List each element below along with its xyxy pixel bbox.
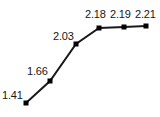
data-point-marker xyxy=(24,101,29,106)
data-label-3: 2.18 xyxy=(85,9,106,20)
data-point-marker xyxy=(97,26,102,31)
data-label-1: 1.66 xyxy=(27,66,48,77)
data-label-4: 2.19 xyxy=(110,9,131,20)
data-label-0: 1.41 xyxy=(2,90,23,101)
data-label-5: 2.21 xyxy=(135,9,156,20)
line-chart: 1.41 1.66 2.03 2.18 2.19 2.21 xyxy=(0,0,160,117)
data-label-2: 2.03 xyxy=(53,31,74,42)
data-point-marker xyxy=(122,25,127,30)
data-point-marker xyxy=(144,24,149,29)
data-point-marker xyxy=(74,42,79,47)
data-point-marker xyxy=(48,79,53,84)
